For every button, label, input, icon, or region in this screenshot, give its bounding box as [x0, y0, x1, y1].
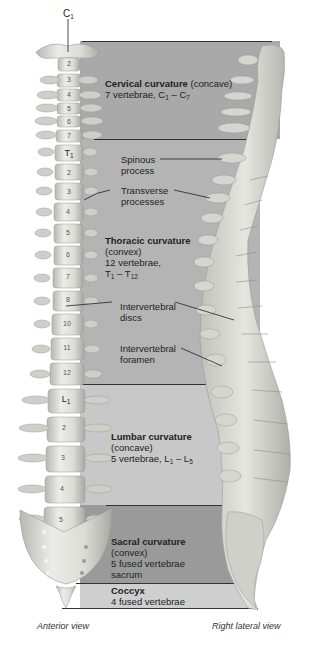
thoracic-qualifier: (convex): [105, 246, 191, 257]
vertebra-t8: 8: [58, 296, 78, 303]
l1-sub: 1: [67, 398, 71, 405]
c1-sub: 1: [70, 13, 74, 20]
vertebra-c7: 7: [59, 132, 79, 139]
sacral-name: sacrum: [111, 569, 185, 580]
lumbar-count: 5 vertebrae,: [111, 453, 164, 464]
thoracic-range-dash: –: [114, 268, 124, 279]
cervical-range-end-sub: 7: [186, 94, 190, 101]
callout-transverse-processes: Transverse processes: [121, 185, 168, 207]
spinous-line2: process: [121, 165, 155, 176]
discs-line2: discs: [120, 312, 176, 323]
cervical-title: Cervical curvature: [105, 78, 188, 89]
vertebra-t6: 6: [58, 251, 78, 258]
caption-anterior-view: Anterior view: [37, 621, 89, 631]
vertebra-l4: 4: [52, 485, 72, 492]
transverse-line1: Transverse: [121, 185, 168, 196]
vertebra-c6: 6: [59, 118, 79, 125]
sacral-qualifier: (convex): [111, 547, 185, 558]
callout-intervertebral-discs: Intervertebral discs: [120, 301, 176, 323]
vertebra-c5: 5: [59, 105, 79, 112]
region-label-lumbar: Lumbar curvature (concave) 5 vertebrae, …: [111, 431, 193, 467]
cervical-qualifier: (concave): [191, 78, 233, 89]
vertebra-t10: 10: [57, 320, 77, 327]
cervical-range-dash: –: [169, 89, 180, 100]
lumbar-title: Lumbar curvature: [111, 431, 192, 442]
vertebra-l2: 2: [54, 424, 74, 431]
transverse-line2: processes: [121, 196, 168, 207]
vertebra-t3: 3: [59, 188, 79, 195]
lumbar-range-dash: –: [173, 453, 184, 464]
lumbar-qualifier: (concave): [111, 442, 193, 453]
vertebra-c3: 3: [59, 76, 79, 83]
vertebra-c2: 2: [59, 60, 79, 67]
region-label-coccyx: Coccyx 4 fused vertebrae: [111, 585, 185, 607]
lateral-spine: [194, 45, 290, 610]
vertebra-l1: L1: [56, 394, 76, 405]
region-label-thoracic: Thoracic curvature (convex) 12 vertebrae…: [105, 235, 191, 282]
coccyx-count: 4 fused vertebrae: [111, 596, 185, 607]
vertebra-c4: 4: [59, 91, 79, 98]
callout-spinous-process: Spinous process: [121, 154, 155, 176]
vertebra-l3: 3: [53, 454, 73, 461]
vertebra-t7: 7: [58, 273, 78, 280]
coccyx-title: Coccyx: [111, 585, 145, 596]
thoracic-range-end-sub: 12: [131, 273, 138, 280]
vertebra-t1: T1: [59, 148, 79, 159]
vertebra-t12: 12: [57, 369, 77, 376]
region-label-sacral: Sacral curvature (convex) 5 fused verteb…: [111, 536, 185, 580]
c1-label: C1: [63, 8, 74, 22]
discs-line1: Intervertebral: [120, 301, 176, 312]
t1-sub: 1: [70, 152, 74, 159]
vertebra-l5: 5: [51, 516, 71, 523]
vertebra-t4: 4: [58, 208, 78, 215]
thoracic-title: Thoracic curvature: [105, 235, 191, 246]
callout-intervertebral-foramen: Intervertebral foramen: [120, 343, 176, 365]
lumbar-range-end-sub: 5: [189, 458, 193, 465]
spinous-line1: Spinous: [121, 154, 155, 165]
foramen-line1: Intervertebral: [120, 343, 176, 354]
cervical-count: 7 vertebrae,: [105, 89, 158, 100]
vertebra-t2: 2: [59, 169, 79, 176]
foramen-line2: foramen: [120, 354, 176, 365]
caption-right-lateral-view: Right lateral view: [212, 621, 281, 631]
sacral-title: Sacral curvature: [111, 536, 185, 547]
vertebra-t5: 5: [58, 229, 78, 236]
thoracic-count: 12 vertebrae,: [105, 257, 191, 268]
vertebra-t11: 11: [57, 344, 77, 351]
sacral-count: 5 fused vertebrae: [111, 558, 185, 569]
region-label-cervical: Cervical curvature (concave) 7 vertebrae…: [105, 78, 232, 103]
